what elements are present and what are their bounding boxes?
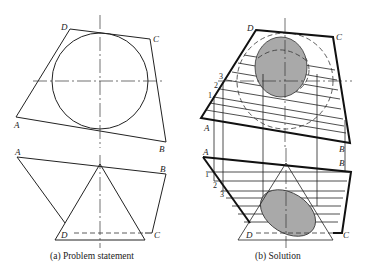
cutting-number-3-front: 3 [220, 190, 224, 199]
cutting-number-3-top: 3 [219, 72, 223, 81]
panel-a-top-view: D C A B [13, 15, 166, 154]
plane-abcd-top [16, 29, 166, 142]
descriptive-geometry-figure: D C A B A B D C (a) Problem statement [0, 0, 369, 275]
plane-edge-a-d-front-b [203, 157, 250, 223]
label-c-front-a: C [154, 230, 161, 240]
label-c-front-b: C [343, 230, 350, 240]
cutting-number-1-front: 1 [205, 170, 209, 179]
label-d-top-a: D [60, 22, 68, 32]
label-c-top-b: C [336, 32, 343, 42]
label-b-front-b: B [339, 158, 345, 168]
label-b-top-a: B [159, 144, 165, 154]
plane-abcd-front [17, 157, 166, 233]
label-b-front-a: B [160, 164, 166, 174]
label-b-top-b: B [339, 144, 345, 154]
cutting-number-2-top: 2 [214, 81, 218, 90]
label-d-front-b: D [245, 230, 253, 240]
label-a-top-a: A [13, 120, 20, 130]
plane-edge-a-d-front [17, 157, 65, 223]
panel-a-front-view: A B D C [14, 147, 166, 248]
label-c-top-a: C [153, 34, 160, 44]
caption-b: (b) Solution [255, 251, 301, 262]
cutting-number-2-front: 2 [213, 181, 217, 190]
panel-b-front-view: A B D C 1 2 3 [202, 147, 351, 248]
label-a-top-b: A [203, 123, 210, 133]
label-d-front-a: D [60, 230, 68, 240]
panel-b-top-view: D C A B 3 2 1 [201, 18, 352, 172]
label-a-front-b: A [202, 147, 209, 157]
label-a-front-a: A [14, 147, 21, 157]
cutting-number-1-top: 1 [208, 91, 212, 100]
label-d-top-b: D [246, 23, 254, 33]
caption-a: (a) Problem statement [50, 251, 134, 262]
